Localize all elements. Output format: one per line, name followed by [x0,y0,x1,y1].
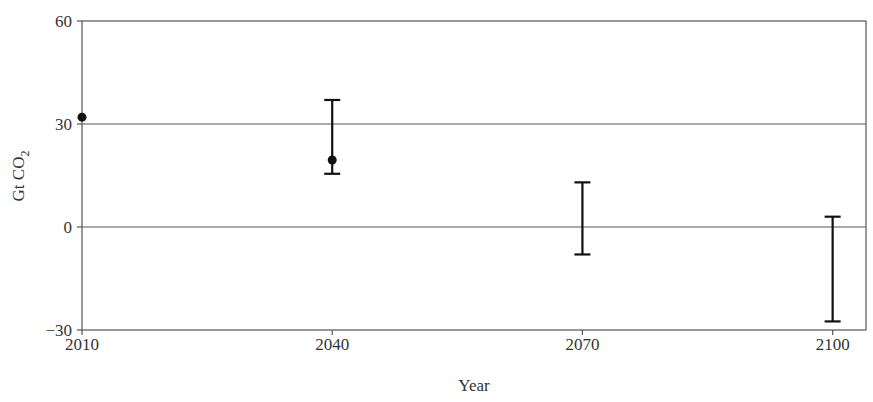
y-tick-label: 0 [64,218,73,237]
data-point [78,113,87,122]
data-point [328,156,337,165]
x-axis-label: Year [458,376,490,395]
plot-border [82,21,866,330]
x-tick-label: 2070 [565,335,599,354]
x-axis: 2010204020702100 [65,330,850,354]
x-tick-label: 2010 [65,335,99,354]
error-bar [574,182,590,254]
error-bar [825,217,841,322]
plot-frame [82,21,866,330]
data-series [78,100,841,321]
y-axis-label: Gt CO2 [9,151,32,202]
y-tick-label: 60 [55,12,72,31]
y-tick-label: 30 [55,115,72,134]
x-tick-label: 2100 [816,335,850,354]
y-axis: 60300−30 [45,12,82,340]
x-tick-label: 2040 [315,335,349,354]
chart: 60300−30 2010204020702100 Year Gt CO2 [0,0,873,402]
